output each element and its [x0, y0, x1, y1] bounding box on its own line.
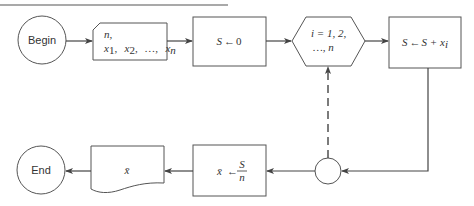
mean-arrow: ←	[227, 165, 238, 177]
input-node: n, x1, x2, …, xn	[93, 23, 176, 60]
begin-label: Begin	[28, 34, 56, 46]
loop-line2: …, n	[313, 41, 334, 53]
mean-denominator: n	[239, 171, 245, 183]
loop-line1: i = 1, 2,	[311, 27, 346, 39]
accumulate-label: S←S + xi	[402, 36, 448, 50]
output-node: x̄	[91, 146, 164, 193]
end-node: End	[17, 146, 65, 194]
input-line1: n,	[104, 28, 113, 40]
begin-node: Begin	[18, 16, 66, 64]
flowchart-canvas: Begin n, x1, x2, …, xn S←0 i = 1, 2, …, …	[0, 0, 474, 206]
init-label: S←0	[217, 35, 243, 47]
edge-accumulate-connector	[342, 68, 428, 171]
accumulate-node: S←S + xi	[389, 17, 461, 68]
connector-node	[315, 158, 341, 184]
mean-node: x̄ ← S n	[193, 145, 266, 196]
mean-numerator: S	[239, 158, 245, 170]
end-label: End	[31, 164, 51, 176]
output-label: x̄	[124, 164, 130, 176]
loop-node: i = 1, 2, …, n	[292, 17, 365, 66]
init-node: S←0	[193, 17, 266, 66]
mean-lhs: x̄	[216, 165, 222, 177]
